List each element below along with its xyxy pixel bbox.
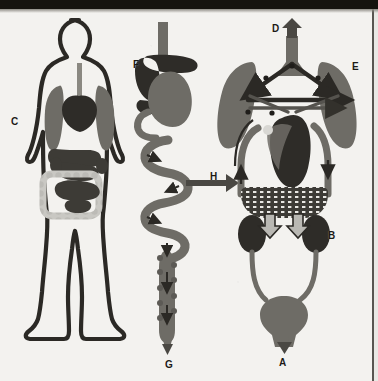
digestive-rectum [161,330,174,344]
scan-right-margin [374,9,378,381]
trachea-outflow-arrow [282,18,302,38]
label-G: G [165,360,173,370]
label-C: C [11,117,18,127]
body-sigmoid [65,200,92,213]
circ-capillary-bed [241,187,328,218]
panel-body [26,20,125,339]
digestive-stomach [148,71,192,127]
scan-top-band [0,0,378,9]
panel-circulatory [217,18,356,354]
body-left-lung [45,85,64,150]
label-E: E [352,62,359,72]
label-H: H [210,172,217,182]
circ-heart-valve [263,125,273,135]
panel-digestive [135,22,239,355]
circ-ureters [252,252,316,300]
figure-canvas: A B C D E F G H [0,0,378,381]
right-kidney [302,215,330,253]
body-heart [62,96,97,132]
diagram-svg [0,0,378,381]
rectum-outflow-arrow [162,344,173,355]
body-small-intestine [55,180,100,200]
left-kidney [238,215,266,253]
body-right-kidney [96,158,108,174]
urethra-outflow-arrow [277,342,292,354]
label-B: B [328,231,335,241]
label-A: A [279,358,286,368]
label-F: F [133,60,139,70]
scan-right-border [372,9,374,381]
label-D: D [272,24,279,34]
